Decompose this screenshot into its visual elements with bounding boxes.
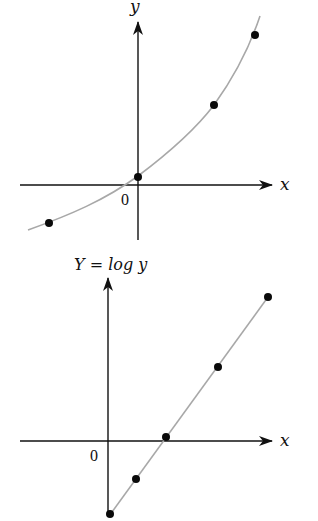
- bottom-point: [106, 510, 114, 518]
- bottom-point: [214, 363, 222, 371]
- bottom-x-axis-label: x: [280, 430, 290, 450]
- bottom-chart: Y = log y x 0: [20, 255, 290, 518]
- top-exponential-curve: [28, 16, 260, 230]
- top-chart: y x 0: [20, 0, 290, 240]
- bottom-origin-label: 0: [90, 447, 98, 464]
- top-origin-label: 0: [121, 191, 129, 208]
- top-point: [45, 219, 53, 227]
- top-y-axis-label: y: [129, 0, 140, 16]
- bottom-y-axis-label: Y = log y: [74, 255, 148, 274]
- figure: y x 0 Y = log y x 0: [0, 0, 318, 521]
- top-point: [251, 31, 259, 39]
- top-point: [134, 173, 142, 181]
- bottom-point: [264, 293, 272, 301]
- top-point: [210, 101, 218, 109]
- bottom-point: [162, 433, 170, 441]
- top-x-axis-label: x: [280, 174, 290, 194]
- bottom-point: [132, 475, 140, 483]
